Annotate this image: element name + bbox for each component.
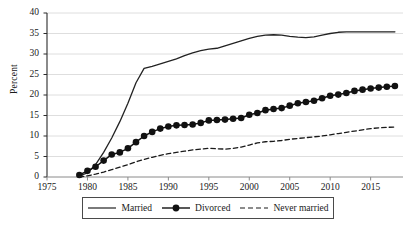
- series-marker-divorced: [157, 125, 164, 132]
- y-tick-label: 40: [15, 7, 39, 17]
- series-marker-divorced: [278, 105, 285, 112]
- legend-label-divorced: Divorced: [195, 203, 230, 213]
- series-line-divorced: [79, 86, 395, 175]
- y-tick-label: 25: [15, 69, 39, 79]
- series-marker-divorced: [311, 97, 318, 104]
- series-marker-divorced: [197, 120, 204, 127]
- series-marker-divorced: [319, 95, 326, 102]
- y-tick-label: 15: [15, 110, 39, 120]
- series-marker-divorced: [92, 163, 99, 170]
- series-marker-divorced: [189, 121, 196, 128]
- legend-label-never-married: Never married: [273, 203, 328, 213]
- legend-symbol-divorced-line-marker: [161, 203, 191, 213]
- legend-item-never-married: Never married: [239, 203, 328, 213]
- x-tick-marks: [47, 177, 371, 181]
- series-marker-divorced: [335, 91, 342, 98]
- chart-figure: Percent 0510152025303540 197519801985199…: [0, 0, 410, 228]
- y-tick-label: 20: [15, 89, 39, 99]
- legend-label-married: Married: [121, 203, 152, 213]
- x-tick-label: 2005: [270, 182, 310, 192]
- y-tick-label: 0: [15, 171, 39, 181]
- series-marker-divorced: [181, 122, 188, 129]
- series-marker-divorced: [343, 90, 350, 97]
- x-tick-label: 2000: [229, 182, 269, 192]
- series-marker-divorced: [384, 84, 391, 91]
- series-marker-divorced: [173, 122, 180, 129]
- series-marker-divorced: [295, 100, 302, 107]
- legend-item-divorced: Divorced: [161, 203, 230, 213]
- series-marker-divorced: [375, 84, 382, 91]
- x-tick-label: 1995: [189, 182, 229, 192]
- series-marker-divorced: [165, 123, 172, 130]
- series-marker-divorced: [108, 151, 115, 158]
- legend-symbol-married-line: [87, 203, 117, 213]
- gridlines: [47, 13, 403, 157]
- x-tick-label: 1985: [108, 182, 148, 192]
- legend-item-married: Married: [87, 203, 152, 213]
- series-marker-divorced: [84, 168, 91, 175]
- series-marker-divorced: [133, 139, 140, 146]
- series-line-never-married: [79, 127, 395, 177]
- y-tick-label: 10: [15, 130, 39, 140]
- x-tick-label: 1990: [148, 182, 188, 192]
- y-tick-label: 30: [15, 48, 39, 58]
- plot-area: [0, 0, 410, 228]
- series-marker-divorced: [214, 117, 221, 124]
- series-marker-divorced: [262, 107, 269, 114]
- series-marker-divorced: [327, 93, 334, 100]
- y-tick-label: 5: [15, 151, 39, 161]
- y-tick-label: 35: [15, 28, 39, 38]
- series-marker-divorced: [238, 115, 245, 122]
- series-marker-divorced: [254, 110, 261, 117]
- x-tick-label: 2015: [351, 182, 391, 192]
- series-marker-divorced: [246, 111, 253, 118]
- series-marker-divorced: [117, 149, 124, 156]
- series-marker-divorced: [367, 85, 374, 92]
- series-marker-divorced: [222, 116, 229, 123]
- series-marker-divorced: [303, 99, 310, 106]
- series-line-married: [79, 32, 395, 176]
- series-marker-divorced: [359, 86, 366, 93]
- series-marker-divorced: [230, 115, 237, 122]
- series-marker-divorced: [100, 157, 107, 164]
- legend-symbol-never-married-dashed: [239, 203, 269, 213]
- series-marker-divorced: [392, 83, 399, 90]
- x-tick-label: 1975: [27, 182, 67, 192]
- series-marker-divorced: [141, 133, 148, 140]
- series-marker-divorced: [270, 106, 277, 113]
- series-marker-divorced: [149, 129, 156, 136]
- chart-legend: Married Divorced Never married: [82, 197, 334, 219]
- series-marker-divorced: [125, 145, 132, 152]
- x-tick-label: 1980: [67, 182, 107, 192]
- series-marker-divorced: [351, 88, 358, 95]
- x-tick-label: 2010: [310, 182, 350, 192]
- series-marker-divorced: [206, 117, 213, 124]
- series-marker-divorced: [286, 102, 293, 109]
